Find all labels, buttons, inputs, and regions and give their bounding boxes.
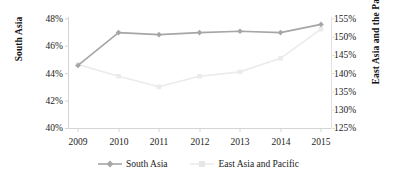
right-axis-ticks — [332, 19, 336, 129]
data-point — [116, 74, 121, 79]
series-south-asia — [75, 22, 324, 69]
legend-marker-diamond-icon — [97, 158, 123, 170]
x-axis-ticks — [78, 129, 321, 133]
data-point — [156, 32, 162, 38]
data-point — [278, 30, 284, 36]
data-point — [157, 85, 162, 90]
data-point — [197, 30, 203, 36]
legend-label-south-asia: South Asia — [126, 159, 167, 169]
chart-legend: South Asia East Asia and Pacific — [0, 158, 396, 170]
legend-marker-square-icon — [189, 158, 215, 170]
data-point — [278, 56, 283, 61]
data-point — [237, 28, 243, 34]
legend-item-south-asia[interactable]: South Asia — [97, 158, 167, 170]
legend-label-east-asia-and-pacific: East Asia and Pacific — [218, 159, 298, 169]
data-point — [319, 27, 324, 32]
legend-item-east-asia-and-pacific[interactable]: East Asia and Pacific — [189, 158, 298, 170]
plot-area — [0, 0, 396, 181]
data-point — [238, 70, 243, 75]
data-point — [318, 22, 324, 28]
chart-container: South Asia East Asia and the Pacific 48%… — [0, 0, 396, 181]
left-axis-ticks — [65, 19, 69, 129]
data-point — [197, 74, 202, 79]
